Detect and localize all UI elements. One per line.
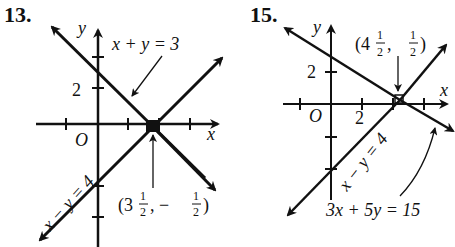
intersection-label-13: (3 1 2 , − 1 2 ) bbox=[118, 189, 209, 219]
graphs-figure: 13. y x O 2 x + y = 3 bbox=[0, 0, 455, 247]
svg-text:(4: (4 bbox=[355, 34, 370, 55]
graph-15: 15. y x O 2 2 (4 1 bbox=[250, 2, 453, 220]
y-axis-label: y bbox=[76, 18, 86, 38]
pointer-arrow bbox=[132, 56, 162, 96]
equation-label-x-plus-y-3: x + y = 3 bbox=[111, 34, 179, 54]
y-tick-label-2: 2 bbox=[72, 80, 81, 100]
problem-number-13: 13. bbox=[4, 2, 32, 27]
svg-text:, −: , − bbox=[150, 195, 169, 215]
svg-text:): ) bbox=[420, 34, 426, 55]
x-tick-label-2: 2 bbox=[355, 108, 364, 128]
x-axis-label: x bbox=[439, 80, 448, 100]
svg-text:2: 2 bbox=[377, 45, 383, 59]
intersection-point-13 bbox=[146, 120, 160, 132]
graph-13: 13. y x O 2 x + y = 3 bbox=[4, 2, 222, 247]
svg-text:1: 1 bbox=[140, 189, 146, 203]
origin-label: O bbox=[309, 106, 322, 126]
intersection-label-15: (4 1 2 , 1 2 ) bbox=[355, 28, 426, 59]
line-x-minus-y-eq-4-upper bbox=[153, 58, 222, 127]
svg-text:1: 1 bbox=[377, 28, 383, 42]
y-axis-label: y bbox=[311, 17, 321, 37]
line-x-minus-y-eq-4 bbox=[288, 100, 400, 215]
y-tick-label-2: 2 bbox=[307, 62, 316, 82]
line-x-plus-y-eq-3-lower bbox=[153, 127, 215, 190]
svg-text:2: 2 bbox=[140, 205, 146, 219]
svg-text:1: 1 bbox=[193, 189, 199, 203]
svg-text:1: 1 bbox=[410, 28, 416, 42]
origin-label: O bbox=[75, 130, 88, 150]
svg-text:,: , bbox=[387, 34, 392, 54]
equation-label-x-minus-y-4: x − y = 4 bbox=[37, 171, 98, 235]
svg-text:2: 2 bbox=[410, 45, 416, 59]
svg-text:(3: (3 bbox=[118, 195, 133, 216]
svg-text:): ) bbox=[203, 195, 209, 216]
equation-label-3x-plus-5y-15: 3x + 5y = 15 bbox=[325, 200, 420, 220]
curved-pointer-arrow bbox=[400, 128, 435, 196]
x-axis-label: x bbox=[206, 124, 215, 144]
svg-text:2: 2 bbox=[193, 205, 199, 219]
problem-number-15: 15. bbox=[250, 2, 278, 27]
